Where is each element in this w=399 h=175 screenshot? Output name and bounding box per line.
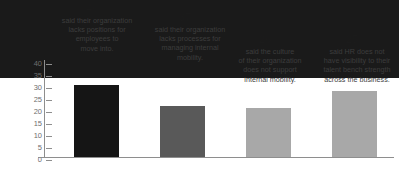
bar-4 [332,91,377,157]
annotation-percent: 26% [226,33,314,46]
annotation-caption: said their organization lacks processes … [148,25,232,62]
bar-1 [74,85,119,157]
bar-2 [160,106,205,157]
bar-3 [246,108,291,157]
annotation-percent: 25% [314,33,399,46]
annotation-caption: said the culture of their organization d… [226,47,314,84]
bar-chart: 40 35 30 25 20 15 10 5 [0,0,399,78]
annotation-caption: said HR does not have visibility to thei… [314,47,399,84]
annotation-caption: said their organization lacks positions … [55,16,139,53]
annotation-percent: 37% [148,11,232,24]
annotation-1: 40% said their organization lacks positi… [55,2,139,53]
annotation-percent: 40% [55,2,139,15]
annotation-4: 25% said HR does not have visibility to … [314,33,399,84]
annotation-3: 26% said the culture of their organizati… [226,33,314,84]
annotation-2: 37% said their organization lacks proces… [148,11,232,62]
